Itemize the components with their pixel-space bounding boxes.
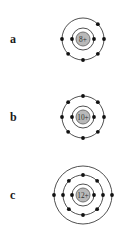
electron-dot	[81, 58, 85, 62]
figure-canvas: a 8+ b 10+ c 12+	[0, 0, 140, 234]
electron-dot	[96, 130, 100, 134]
atom-label-a: a	[10, 33, 16, 45]
electron-dot	[96, 22, 100, 26]
electron-dot	[52, 193, 56, 197]
atom-svg-b: 10+	[33, 78, 133, 156]
electron-dot	[95, 179, 99, 183]
electron-dot	[66, 130, 70, 134]
electron-dot	[92, 115, 96, 119]
electron-dot	[81, 213, 85, 217]
atom-diagram-a: a 8+	[0, 0, 140, 78]
atom-label-c: c	[10, 189, 15, 201]
electron-dot	[96, 100, 100, 104]
electron-dot	[67, 179, 71, 183]
atom-svg-c: 12+	[33, 156, 133, 234]
nucleus-charge-label: 10+	[77, 113, 89, 122]
electron-dot	[70, 37, 74, 41]
electron-dot	[110, 193, 114, 197]
atom-drawing-b: 10+	[33, 78, 133, 156]
atom-diagram-c: c 12+	[0, 156, 140, 234]
electron-dot	[95, 207, 99, 211]
electron-dot	[61, 193, 65, 197]
electron-dot	[92, 193, 96, 197]
electron-dot	[66, 100, 70, 104]
electron-dot	[60, 37, 64, 41]
electron-dot	[67, 207, 71, 211]
nucleus-charge-label: 12+	[77, 191, 89, 200]
electron-dot	[96, 52, 100, 56]
electron-dot	[81, 173, 85, 177]
electron-dot	[101, 193, 105, 197]
electron-dot	[102, 115, 106, 119]
atom-svg-a: 8+	[33, 0, 133, 78]
electron-dot	[92, 37, 96, 41]
nucleus-charge-label: 8+	[79, 35, 87, 44]
electron-dot	[102, 37, 106, 41]
electron-dot	[81, 94, 85, 98]
atom-drawing-a: 8+	[33, 0, 133, 78]
electron-dot	[70, 115, 74, 119]
electron-dot	[81, 136, 85, 140]
electron-dot	[70, 193, 74, 197]
electron-dot	[66, 52, 70, 56]
electron-dot	[60, 115, 64, 119]
atom-label-b: b	[10, 111, 17, 123]
atom-diagram-b: b 10+	[0, 78, 140, 156]
atom-drawing-c: 12+	[33, 156, 133, 234]
